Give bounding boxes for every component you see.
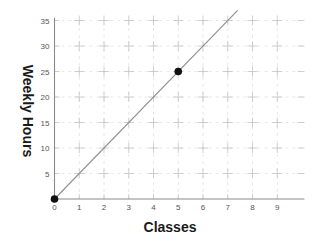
axes (55, 18, 305, 199)
x-tick-label: 0 (52, 203, 57, 212)
data-point (51, 195, 59, 203)
y-tick-label: 35 (41, 17, 50, 26)
x-tick-label: 8 (250, 203, 255, 212)
y-tick-label: 30 (41, 42, 50, 51)
series (55, 10, 238, 199)
x-tick-labels: 0123456789 (52, 203, 280, 212)
x-tick-label: 2 (102, 203, 107, 212)
line-chart: 0123456789 5101520253035 Classes Weekly … (0, 0, 318, 245)
y-tick-label: 5 (45, 170, 50, 179)
y-tick-label: 25 (41, 68, 50, 77)
data-point (174, 68, 182, 76)
x-tick-label: 5 (176, 203, 181, 212)
y-tick-labels: 5101520253035 (41, 17, 50, 179)
x-tick-label: 7 (226, 203, 231, 212)
y-tick-label: 15 (41, 119, 50, 128)
x-tick-label: 1 (77, 203, 82, 212)
y-axis-title: Weekly Hours (20, 65, 36, 158)
series-line (55, 10, 238, 199)
x-tick-label: 3 (127, 203, 132, 212)
x-axis-title: Classes (144, 219, 197, 235)
y-tick-label: 20 (41, 93, 50, 102)
x-tick-label: 9 (275, 203, 280, 212)
grid (55, 16, 305, 200)
x-tick-label: 6 (201, 203, 206, 212)
x-tick-label: 4 (151, 203, 156, 212)
chart: 0123456789 5101520253035 Classes Weekly … (0, 0, 318, 245)
y-tick-label: 10 (41, 144, 50, 153)
